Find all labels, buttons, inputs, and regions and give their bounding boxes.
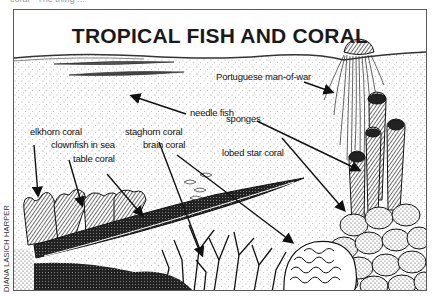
- label-table-coral: table coral: [73, 153, 115, 164]
- label-portuguese-man-of-war: Portuguese man-of-war: [216, 71, 311, 82]
- label-brain-coral: brain coral: [143, 139, 185, 150]
- label-clownfish-in-sea: clownfish in sea: [51, 139, 115, 150]
- reef-illustration: [14, 10, 427, 291]
- label-sponges: sponges: [226, 113, 261, 124]
- label-elkhorn-coral: elkhorn coral: [30, 126, 82, 137]
- artist-credit: DIANA LASICH HARPER: [2, 205, 11, 292]
- illustration-frame: TROPICAL FISH AND CORAL Portuguese man-o…: [13, 9, 427, 291]
- figure-title: TROPICAL FISH AND CORAL: [14, 24, 426, 48]
- label-lobed-star-coral: lobed star coral: [222, 147, 284, 158]
- cropped-caption-text: coral · The thing ...: [10, 0, 85, 4]
- label-staghorn-coral: staghorn coral: [125, 126, 182, 137]
